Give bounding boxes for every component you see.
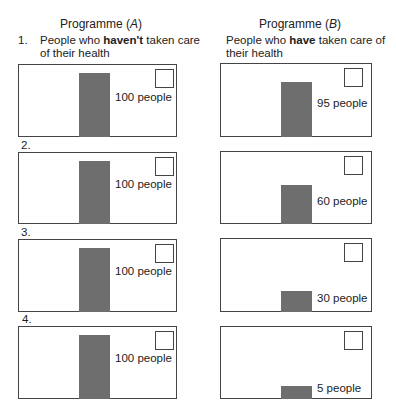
row-number-3: 3. [21,226,31,238]
heading-letter: B [329,17,337,31]
desc-pre: People who [40,34,103,46]
row-number-2: 2. [21,139,31,151]
bar-b-4 [281,386,312,399]
checkbox-b-2[interactable] [344,156,363,175]
checkbox-b-3[interactable] [344,243,363,262]
row-number-1: 1. [18,34,28,46]
checkbox-a-3[interactable] [155,244,174,263]
label-a-3: 100 people [115,265,172,277]
desc-pre: People who [226,34,289,46]
panel-b-2: 60 people [220,151,372,224]
checkbox-b-1[interactable] [344,68,363,87]
panel-b-4: 5 people [220,326,372,399]
label-a-2: 100 people [115,178,172,190]
panel-a-4: 100 people [18,326,177,399]
label-a-4: 100 people [115,352,172,364]
bar-a-2 [79,161,110,224]
desc-bold: have [289,34,315,46]
checkbox-a-2[interactable] [155,157,174,176]
panel-a-2: 100 people [18,152,177,224]
desc-post: taken care of [316,34,386,46]
panel-a-1: 100 people [18,64,177,137]
label-b-2: 60 people [317,195,368,207]
desc-bold: haven't [103,34,143,46]
bar-a-1 [79,73,110,137]
desc-post: taken care [143,34,200,46]
checkbox-a-1[interactable] [155,69,174,88]
panel-b-3: 30 people [220,238,372,312]
bar-a-4 [79,335,110,399]
checkbox-a-4[interactable] [155,331,174,350]
heading-prefix: Programme ( [259,17,329,31]
heading-suffix: ) [138,17,142,31]
programme-a-heading: Programme (A) [60,17,142,31]
label-b-3: 30 people [317,292,368,304]
desc-line2: of their health [40,47,110,59]
bar-a-3 [79,248,110,312]
heading-prefix: Programme ( [60,17,130,31]
label-b-4: 5 people [317,382,361,394]
bar-b-3 [281,291,312,312]
heading-suffix: ) [337,17,341,31]
bar-b-2 [281,185,312,224]
programme-b-heading: Programme (B) [259,17,341,31]
bar-b-1 [281,82,312,137]
panel-a-3: 100 people [18,239,177,312]
row-number-4: 4. [22,313,32,325]
desc-line2: their health [226,47,283,59]
checkbox-b-4[interactable] [344,331,363,350]
panel-b-1: 95 people [220,63,372,137]
label-b-1: 95 people [317,97,368,109]
programme-b-description: People who have taken care of their heal… [226,34,385,60]
label-a-1: 100 people [115,91,172,103]
heading-letter: A [130,17,138,31]
programme-a-description: People who haven't taken care of their h… [40,34,200,60]
